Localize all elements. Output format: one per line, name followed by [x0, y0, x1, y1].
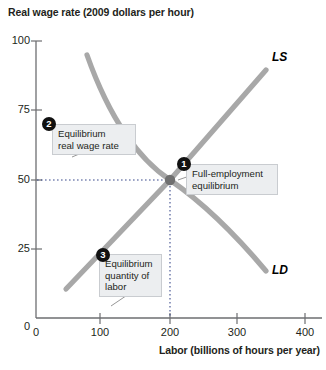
labor-supply-curve-label: LS: [272, 50, 287, 64]
callout-full-employment-equilibrium: Full-employment equilibrium: [186, 164, 278, 195]
callout-1-badge: 1: [177, 157, 191, 171]
y-tick-label-75: 75: [0, 103, 30, 115]
callout-3-line-3: labor: [105, 281, 157, 293]
y-tick-label-50: 50: [0, 173, 30, 185]
callout-equilibrium-real-wage-rate: Equilibrium real wage rate: [52, 124, 136, 155]
callout-1-line-1: Full-employment: [192, 168, 273, 180]
labor-demand-curve-label: LD: [272, 263, 288, 277]
x-tick-label-100: 100: [80, 326, 120, 338]
callout-3-line-1: Equilibrium: [105, 258, 157, 270]
callout-2-badge: 2: [42, 117, 56, 131]
labor-market-equilibrium-figure: Real wage rate (2009 dollars per hour) 1…: [0, 0, 326, 370]
equilibrium-point-marker: [165, 175, 175, 185]
x-tick-label-0: 0: [16, 326, 56, 338]
callout-2-line-2: real wage rate: [58, 140, 131, 152]
y-tick-label-25: 25: [0, 242, 30, 254]
callout-2-line-1: Equilibrium: [58, 128, 131, 140]
x-tick-label-200: 200: [150, 326, 190, 338]
y-tick-label-100: 100: [0, 34, 30, 46]
callout-3-line-2: quantity of: [105, 270, 157, 282]
x-tick-label-300: 300: [217, 326, 257, 338]
callout-1-line-2: equilibrium: [192, 180, 273, 192]
x-tick-label-400: 400: [285, 326, 325, 338]
callout-equilibrium-quantity-of-labor: Equilibrium quantity of labor: [99, 254, 162, 297]
callout-3-badge: 3: [96, 248, 110, 262]
x-axis-title: Labor (billions of hours per year): [159, 344, 320, 356]
